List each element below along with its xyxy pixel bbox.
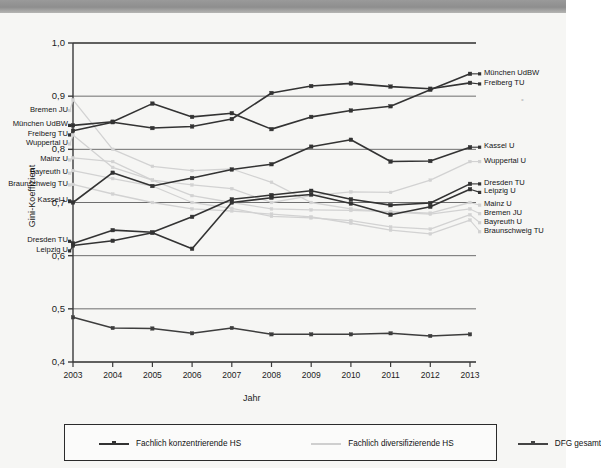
chart-page: Gini-Koeffizient 0,40,50,60,70,80,91,0 2… bbox=[0, 13, 566, 468]
y-tick-label: 1,0 bbox=[37, 37, 65, 48]
legend-item-list: Fachlich konzentrierende HSFachlich dive… bbox=[65, 425, 498, 462]
series-label-right: Freiberg TU bbox=[484, 79, 524, 87]
x-tick-label: 2010 bbox=[331, 370, 371, 380]
x-tick-label: 2008 bbox=[252, 370, 292, 380]
y-tick-label: 0,9 bbox=[37, 90, 65, 101]
x-tick-label: 2006 bbox=[172, 370, 212, 380]
chart-legend: Fachlich konzentrierende HSFachlich dive… bbox=[64, 424, 497, 461]
series-label-right: Kassel U bbox=[484, 142, 514, 150]
x-tick-label: 2009 bbox=[291, 370, 331, 380]
series-label-right: München UdBW bbox=[484, 69, 539, 77]
series-label-left: Braunschweig TU bbox=[8, 180, 68, 188]
x-axis-title: Jahr bbox=[243, 393, 261, 403]
series-label-left: Wuppertal U bbox=[26, 139, 68, 147]
legend-line bbox=[311, 443, 341, 445]
series-label-left: Mainz U bbox=[40, 155, 68, 163]
legend-marker-icon bbox=[112, 441, 116, 445]
legend-label: Fachlich diversifizierende HS bbox=[348, 439, 454, 448]
series-label-left: Bayreuth U bbox=[30, 168, 68, 176]
legend-label: DFG gesamt bbox=[555, 439, 601, 448]
series-label-left: Kassel U bbox=[38, 196, 68, 204]
legend-label: Fachlich konzentrierende HS bbox=[136, 439, 241, 448]
series-dfg-total bbox=[71, 316, 471, 338]
window-title-bar bbox=[0, 0, 566, 13]
x-tick-label: 2003 bbox=[53, 370, 93, 380]
series-label-left: München UdBW bbox=[13, 120, 68, 128]
series-label-right: Bayreuth U bbox=[484, 218, 522, 226]
series-label-left: Dresden TU bbox=[27, 236, 68, 244]
series-label-right: Braunschweig TU bbox=[484, 227, 544, 235]
series-label-right: Mainz U bbox=[484, 200, 512, 208]
stray-speck: • bbox=[521, 95, 524, 104]
series-label-right: Leipzig U bbox=[484, 187, 516, 195]
y-tick-label: 0,4 bbox=[37, 356, 65, 367]
legend-swatch-icon bbox=[311, 439, 341, 448]
gini-coefficient-line-chart bbox=[0, 13, 566, 468]
series-group-concentrating bbox=[71, 72, 472, 251]
series-label-left: Bremen JU bbox=[30, 106, 68, 114]
series-group-diversifying bbox=[72, 98, 472, 235]
y-tick-label: 0,5 bbox=[37, 303, 65, 314]
series-label-right: Wuppertal U bbox=[484, 157, 526, 165]
x-tick-label: 2004 bbox=[93, 370, 133, 380]
series-label-left: Leipzig U bbox=[36, 246, 68, 254]
legend-swatch-icon bbox=[99, 439, 129, 448]
x-tick-label: 2012 bbox=[410, 370, 450, 380]
x-tick-label: 2007 bbox=[212, 370, 252, 380]
series-label-right: Bremen JU bbox=[484, 209, 522, 217]
legend-item: DFG gesamt bbox=[518, 439, 601, 448]
x-tick-label: 2013 bbox=[450, 370, 490, 380]
legend-swatch-icon bbox=[518, 439, 548, 448]
x-tick-label: 2011 bbox=[371, 370, 411, 380]
legend-item: Fachlich diversifizierende HS bbox=[311, 439, 454, 448]
series-label-left: Freiberg TU bbox=[28, 130, 68, 138]
legend-marker-icon bbox=[531, 441, 535, 445]
x-tick-label: 2005 bbox=[132, 370, 172, 380]
legend-item: Fachlich konzentrierende HS bbox=[99, 439, 241, 448]
